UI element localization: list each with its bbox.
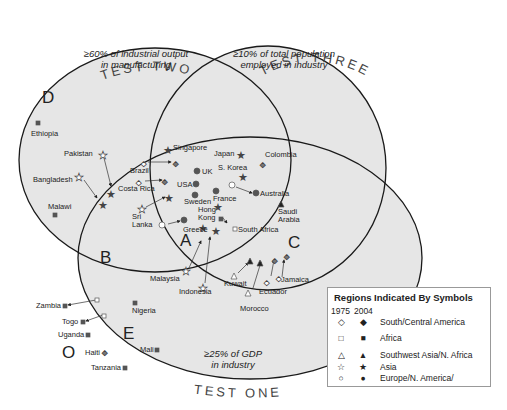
japan-star-icon: ★	[236, 149, 246, 161]
label-jamaica: Jamaica	[281, 275, 310, 284]
label-japan: Japan	[214, 149, 234, 158]
usa-marker	[193, 181, 199, 187]
label-haiti: Haiti	[85, 348, 100, 357]
legend-label: South/Central America	[380, 317, 465, 327]
australia-1975-marker	[229, 182, 235, 188]
label-togo: Togo	[62, 317, 78, 326]
indonesia-2004-star-icon: ★	[211, 225, 221, 237]
region-d-label: D	[42, 88, 54, 107]
label-usa: USA	[177, 180, 192, 189]
label-brazil: Brazil	[130, 166, 149, 175]
southafrica-marker	[233, 227, 237, 231]
label-kuwait: Kuwait	[224, 279, 247, 288]
label-ecuador: Ecuador	[259, 287, 287, 296]
greece-1975-marker	[159, 222, 165, 228]
region-b-label: B	[100, 248, 111, 267]
label-kong: Kong	[198, 213, 216, 222]
diamond-filled-icon: ◆	[358, 317, 368, 327]
star-outline-icon: ☆	[336, 362, 346, 372]
haiti-diamond-icon: ◆	[102, 349, 108, 356]
square-filled-icon: ■	[358, 333, 368, 343]
star-filled-icon: ★	[358, 362, 368, 372]
malawi-marker	[53, 213, 57, 217]
hongkong-marker	[219, 217, 223, 221]
triangle-filled-icon: ▲	[358, 350, 368, 360]
triangle-outline-icon: △	[336, 350, 346, 360]
legend-year-1975: 1975	[331, 306, 350, 316]
label-lanka: Lanka	[132, 220, 153, 229]
uk-marker	[194, 168, 200, 174]
mali-marker	[155, 348, 159, 352]
bangladesh-star-icon: ★	[74, 171, 84, 183]
label-zambia: Zambia	[36, 301, 62, 310]
label-uk: UK	[202, 167, 212, 176]
region-o-label: O	[62, 343, 75, 362]
togo-marker	[81, 320, 85, 324]
label-mali: Mali	[140, 345, 154, 354]
uganda-marker	[86, 333, 90, 337]
australia-2004-marker	[253, 190, 259, 196]
region-c-label: C	[288, 233, 300, 252]
pakistan-star-icon: ★	[98, 149, 108, 161]
label-uganda: Uganda	[58, 330, 85, 339]
label-ethiopia: Ethiopia	[31, 129, 59, 138]
legend-label: Southwest Asia/N. Africa	[380, 350, 473, 360]
ethiopia-marker	[36, 121, 40, 125]
label-indonesia: Indonesia	[179, 287, 212, 296]
label-tanzania: Tanzania	[91, 363, 122, 372]
label-morocco: Morocco	[240, 304, 269, 313]
label-arabia: Arabia	[278, 215, 301, 224]
test-three-criterion: ≥10% of total populationemployed in indu…	[233, 48, 335, 70]
region-e-label: E	[123, 324, 134, 343]
circle-outline-icon: ○	[336, 374, 346, 383]
label-malawi: Malawi	[48, 202, 72, 211]
legend-years: 19752004	[331, 306, 377, 316]
legend-year-2004: 2004	[354, 306, 373, 316]
tanzania-marker	[123, 366, 127, 370]
label-malaysia: Malaysia	[150, 274, 180, 283]
label-singapore: Singapore	[173, 143, 207, 152]
nigeria-marker	[133, 301, 137, 305]
diamond-outline-icon: ◇	[336, 317, 346, 327]
legend-label: Europe/N. America/	[380, 374, 454, 383]
singapore-star-icon: ★	[163, 144, 173, 156]
zambia-1975-marker	[95, 298, 99, 302]
label-costa-rica: Costa Rica	[118, 184, 156, 193]
zambia-marker	[63, 304, 67, 308]
label-australia: Australia	[260, 189, 290, 198]
label-south-africa: South Africa	[238, 225, 279, 234]
label-france: France	[213, 194, 236, 203]
test-one-title: TEST ONE	[193, 382, 282, 401]
label-greece: Greece	[183, 225, 208, 234]
square-outline-icon: □	[336, 333, 346, 343]
togo-1975-marker	[102, 314, 106, 318]
test-one-criterion: ≥25% of GDPin industry	[204, 348, 263, 370]
label-colombia: Colombia	[265, 150, 298, 159]
label-bangladesh: Bangladesh	[33, 175, 73, 184]
legend-box: Regions Indicated By Symbols 19752004 ◇ …	[327, 287, 491, 387]
label-pakistan: Pakistan	[64, 149, 93, 158]
srilanka-2004-star-icon: ★	[164, 192, 174, 204]
legend-label: Asia	[380, 362, 397, 372]
circle-filled-icon: ●	[358, 374, 368, 383]
malaysia-star-icon: ★	[181, 265, 191, 277]
skorea-star-icon: ★	[238, 171, 248, 183]
legend-title: Regions Indicated By Symbols	[334, 292, 473, 303]
legend-label: Africa	[380, 333, 402, 343]
label-s-korea: S. Korea	[218, 163, 248, 172]
label-nigeria: Nigeria	[132, 306, 157, 315]
greece-2004-marker	[181, 217, 187, 223]
bangladesh-2004-star-icon: ★	[98, 199, 108, 211]
